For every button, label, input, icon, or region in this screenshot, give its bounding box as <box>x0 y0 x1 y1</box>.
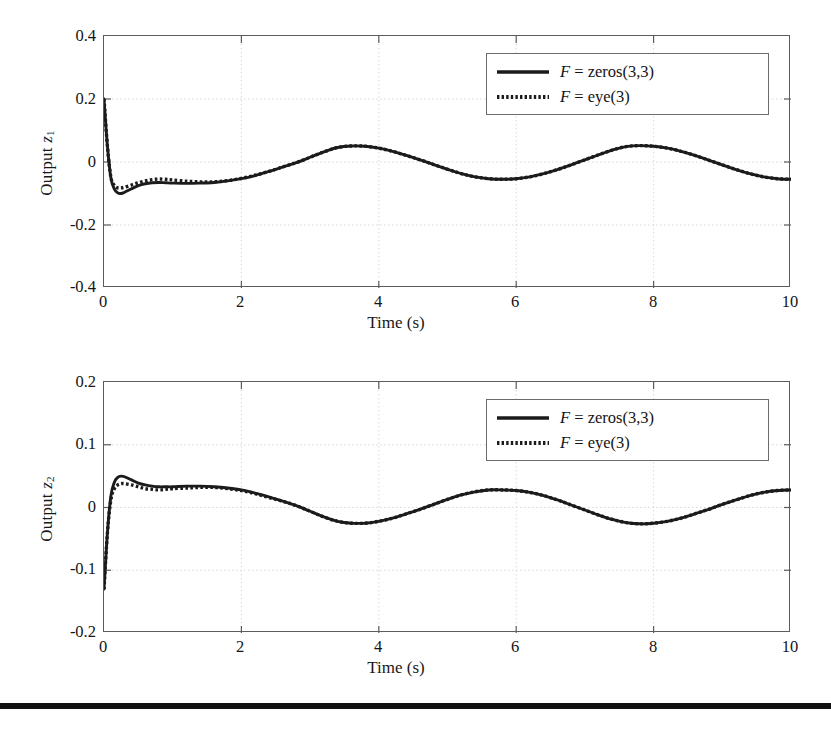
chart-panel-output-z1: Output z1 0.4 0.2 0 -0.2 -0.4 <box>0 0 831 340</box>
legend-label-z2-zeros33: F = zeros(3,3) <box>560 408 654 428</box>
x-tick-z1-3: 6 <box>485 292 545 312</box>
legend-swatch-dotted-icon <box>495 90 551 104</box>
page-divider-rule <box>0 703 831 709</box>
y-axis-label-sub-z1: 1 <box>44 130 56 136</box>
y-tick-z2-0: 0.2 <box>28 372 96 392</box>
data-line-z2-zeros33 <box>104 476 791 589</box>
legend-swatch-dotted-icon <box>495 436 551 450</box>
y-tick-z1-1: 0.2 <box>28 89 96 109</box>
x-tick-z1-4: 8 <box>623 292 683 312</box>
y-axis-label-sub-z2: 2 <box>44 476 56 482</box>
legend-z1: F = zeros(3,3) F = eye(3) <box>486 53 769 115</box>
x-tick-z1-5: 10 <box>760 292 820 312</box>
x-tick-z1-1: 2 <box>210 292 270 312</box>
y-tick-z1-2: 0 <box>28 152 96 172</box>
legend-label-z2-eye3-var: F <box>560 433 570 452</box>
figure-container: Output z1 0.4 0.2 0 -0.2 -0.4 <box>0 0 831 729</box>
x-tick-z2-2: 4 <box>348 637 408 657</box>
x-tick-z2-1: 2 <box>210 637 270 657</box>
plot-area-z2: F = zeros(3,3) F = eye(3) <box>103 381 790 632</box>
legend-item-z2-eye3: F = eye(3) <box>495 430 758 455</box>
plot-area-z1: F = zeros(3,3) F = eye(3) <box>103 35 790 287</box>
legend-swatch-solid-icon <box>495 411 551 425</box>
x-axis-label-z1: Time (s) <box>326 313 466 333</box>
y-tick-z2-3: -0.1 <box>28 559 96 579</box>
x-tick-z2-3: 6 <box>485 637 545 657</box>
legend-label-z2-zeros33-rest: = zeros(3,3) <box>570 408 654 427</box>
x-tick-z2-4: 8 <box>623 637 683 657</box>
x-axis-label-z2: Time (s) <box>326 658 466 678</box>
legend-swatch-solid-icon <box>495 65 551 79</box>
legend-label-z2-zeros33-var: F <box>560 408 570 427</box>
y-tick-z2-2: 0 <box>28 497 96 517</box>
y-tick-z1-3: -0.2 <box>28 215 96 235</box>
chart-panel-output-z2: Output z2 0.2 0.1 0 -0.1 -0.2 <box>0 346 831 686</box>
y-axis-label-var-z1: z <box>37 136 56 143</box>
legend-item-z2-zeros33: F = zeros(3,3) <box>495 405 758 430</box>
legend-label-z1-zeros33: F = zeros(3,3) <box>560 62 654 82</box>
y-tick-z1-0: 0.4 <box>28 26 96 46</box>
y-axis-label-var-z2: z <box>37 482 56 489</box>
y-tick-z2-1: 0.1 <box>28 434 96 454</box>
x-tick-z1-2: 4 <box>348 292 408 312</box>
legend-item-z1-eye3: F = eye(3) <box>495 84 758 109</box>
legend-label-z1-zeros33-var: F <box>560 62 570 81</box>
legend-label-z1-eye3-var: F <box>560 87 570 106</box>
legend-label-z2-eye3: F = eye(3) <box>560 433 630 453</box>
legend-item-z1-zeros33: F = zeros(3,3) <box>495 59 758 84</box>
x-tick-z2-0: 0 <box>73 637 133 657</box>
legend-z2: F = zeros(3,3) F = eye(3) <box>486 399 769 461</box>
legend-label-z1-zeros33-rest: = zeros(3,3) <box>570 62 654 81</box>
legend-label-z1-eye3: F = eye(3) <box>560 87 630 107</box>
legend-label-z2-eye3-rest: = eye(3) <box>570 433 630 452</box>
x-tick-z1-0: 0 <box>73 292 133 312</box>
legend-label-z1-eye3-rest: = eye(3) <box>570 87 630 106</box>
x-tick-z2-5: 10 <box>760 637 820 657</box>
